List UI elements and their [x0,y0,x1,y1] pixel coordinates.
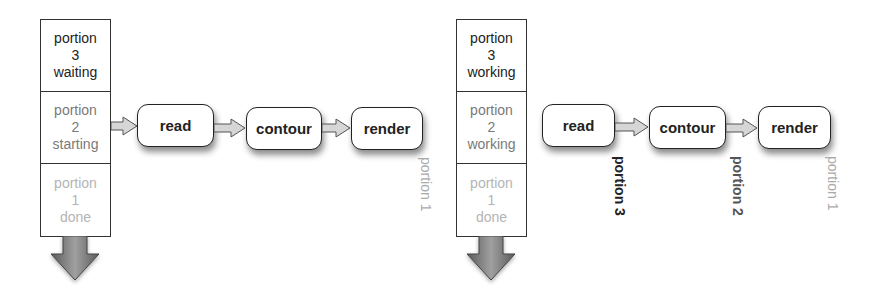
left-node-contour: contour [246,107,322,150]
right-down-arrow-icon [464,236,520,286]
cell-state: starting [53,136,99,153]
left-stack-cell-portion-3: portion 3 waiting [41,20,110,92]
right-node-contour: contour [649,106,726,149]
right-arrow-contour-to-render-icon [726,118,759,138]
node-label: contour [256,120,312,137]
left-arrow-read-to-contour-icon [214,118,247,138]
cell-number: 1 [488,192,496,209]
node-label: contour [660,119,716,136]
left-render-portion-label: portion 1 [418,157,434,211]
left-stack-cell-portion-2: portion 2 starting [41,92,110,164]
left-down-arrow-icon [48,236,104,286]
right-render-portion-label: portion 1 [825,156,841,210]
cell-state: waiting [54,64,98,81]
right-read-portion-label: portion 3 [612,156,628,216]
node-label: render [771,119,818,136]
right-portion-stack: portion 3 working portion 2 working port… [456,19,527,237]
left-stack-cell-portion-1: portion 1 done [41,164,110,236]
left-portion-stack: portion 3 waiting portion 2 starting por… [40,19,111,237]
right-stack-cell-portion-1: portion 1 done [457,164,526,236]
right-stack-cell-portion-3: portion 3 working [457,20,526,92]
cell-word: portion [470,102,513,119]
cell-state: done [476,209,507,226]
node-label: read [160,117,192,134]
node-label: read [563,117,595,134]
right-node-read: read [542,104,615,147]
cell-word: portion [470,175,513,192]
left-node-render: render [351,107,423,150]
node-label: render [364,120,411,137]
cell-word: portion [54,175,97,192]
cell-number: 3 [488,47,496,64]
cell-word: portion [54,30,97,47]
cell-word: portion [470,30,513,47]
cell-state: working [467,136,515,153]
left-arrow-contour-to-render-icon [322,118,352,138]
left-node-read: read [137,104,214,147]
right-contour-portion-label: portion 2 [730,156,746,216]
right-arrow-read-to-contour-icon [615,117,650,137]
cell-number: 2 [488,119,496,136]
cell-number: 1 [72,192,80,209]
cell-number: 3 [72,47,80,64]
cell-word: portion [54,102,97,119]
left-arrow-stack-to-read-icon [111,116,139,136]
cell-number: 2 [72,119,80,136]
cell-state: done [60,209,91,226]
cell-state: working [467,64,515,81]
right-node-render: render [758,106,831,149]
right-stack-cell-portion-2: portion 2 working [457,92,526,164]
